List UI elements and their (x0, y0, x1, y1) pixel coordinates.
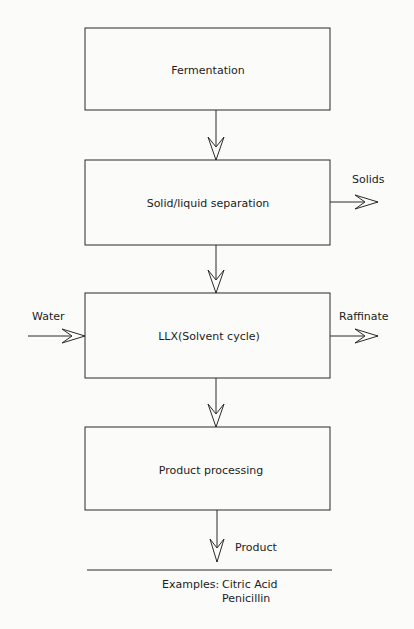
arrow-water-in (28, 329, 85, 343)
node-label-product-processing: Product processing (159, 464, 264, 477)
process-flow-diagram: gure ... Concept processing ... flow dia… (0, 0, 414, 629)
label-solids: Solids (352, 173, 385, 186)
label-raffinate: Raffinate (339, 310, 389, 323)
arrow-solid-liquid-to-llx (208, 245, 224, 293)
label-water: Water (32, 310, 65, 323)
example-item: Penicillin (222, 592, 270, 605)
node-label-llx: LLX(Solvent cycle) (158, 330, 260, 343)
examples-label: Examples: (162, 578, 219, 591)
node-label-fermentation: Fermentation (171, 64, 244, 77)
arrow-raffinate-out (330, 329, 378, 343)
arrow-fermentation-to-solid-liquid (208, 110, 224, 160)
example-item: Citric Acid (222, 578, 278, 591)
arrow-llx-to-product-processing (208, 378, 224, 427)
label-product: Product (235, 541, 277, 554)
arrow-solids-out (330, 195, 378, 209)
node-label-solid-liquid: Solid/liquid separation (147, 197, 270, 210)
arrow-product-out (210, 510, 224, 562)
